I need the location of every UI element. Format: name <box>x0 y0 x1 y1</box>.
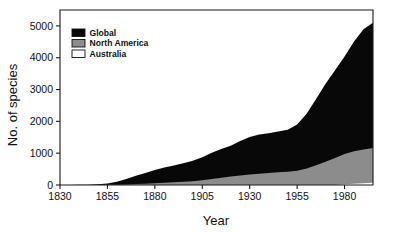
y-tick-label: 1000 <box>30 147 54 159</box>
y-tick-label: 4000 <box>30 51 54 63</box>
x-tick-label: 1905 <box>191 190 215 202</box>
legend-label: Global <box>90 28 117 38</box>
y-tick-label: 0 <box>47 179 53 191</box>
x-tick-label: 1980 <box>333 190 357 202</box>
figure-container: 010002000300040005000 183018551880190519… <box>0 0 394 232</box>
x-tick-label: 1930 <box>238 190 262 202</box>
y-tick-label: 2000 <box>30 115 54 127</box>
legend-label: Australia <box>90 49 127 59</box>
x-tick-label: 1855 <box>96 190 120 202</box>
y-axis-title: No. of species <box>5 63 20 146</box>
legend-swatch <box>72 40 85 48</box>
x-tick-label: 1830 <box>48 190 72 202</box>
species-area-chart: 010002000300040005000 183018551880190519… <box>0 0 394 232</box>
y-tick-label: 5000 <box>30 20 54 32</box>
x-tick-label: 1880 <box>143 190 167 202</box>
legend-label: North America <box>90 38 149 48</box>
legend-swatch <box>72 29 85 37</box>
x-tick-label: 1955 <box>285 190 309 202</box>
legend-swatch <box>72 50 85 58</box>
x-axis-title: Year <box>203 213 230 228</box>
y-tick-label: 3000 <box>30 83 54 95</box>
